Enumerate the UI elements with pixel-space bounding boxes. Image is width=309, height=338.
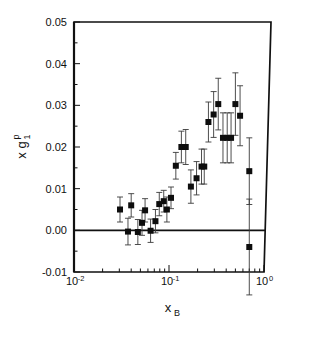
svg-text:1: 1 (22, 134, 32, 139)
x-axis-title: xB (165, 300, 180, 318)
svg-text:B: B (174, 308, 180, 318)
data-point-marker (148, 228, 154, 234)
svg-text:-1: -1 (173, 274, 180, 283)
data-point-marker (128, 202, 134, 208)
data-point-marker (232, 101, 238, 107)
x-tick-labels: 10-210-1100 (66, 274, 273, 287)
data-point-marker (194, 175, 200, 181)
data-point-marker (211, 112, 217, 118)
data-point-marker (161, 198, 167, 204)
y-tick-label: 0.05 (46, 16, 67, 28)
x-tick-label: 10-1 (161, 274, 179, 287)
svg-text:10: 10 (66, 275, 78, 287)
data-markers (117, 101, 252, 250)
data-point-marker (205, 119, 211, 125)
data-point-marker (164, 207, 170, 213)
y-tick-label: 0.02 (46, 141, 67, 153)
data-point-marker (228, 135, 234, 141)
svg-text:10: 10 (161, 275, 173, 287)
scatter-plot-svg: -0.010.000.010.020.030.040.05 10-210-110… (0, 0, 309, 338)
y-axis-title: x g1p (11, 134, 32, 158)
data-point-marker (183, 144, 189, 150)
data-point-marker (173, 163, 179, 169)
data-point-marker (117, 207, 123, 213)
axis-ticks (74, 22, 264, 272)
data-point-marker (215, 101, 221, 107)
y-tick-label: 0.00 (46, 224, 67, 236)
plot-frame (74, 22, 271, 272)
y-tick-labels: -0.010.000.010.020.030.040.05 (42, 16, 67, 278)
x-tick-label: 100 (256, 274, 273, 287)
data-point-marker (168, 195, 174, 201)
plot-border (74, 22, 271, 272)
svg-text:x g: x g (14, 141, 29, 158)
data-point-marker (135, 229, 141, 235)
data-point-marker (152, 218, 158, 224)
y-tick-label: -0.01 (42, 266, 67, 278)
data-point-marker (139, 220, 145, 226)
data-point-marker (246, 244, 252, 250)
data-point-marker (188, 184, 194, 190)
axis-titles: xBx g1p (11, 134, 180, 318)
svg-text:0: 0 (269, 274, 273, 283)
svg-text:10: 10 (256, 275, 268, 287)
data-point-marker (237, 113, 243, 119)
y-tick-label: 0.01 (46, 183, 67, 195)
y-tick-label: 0.04 (46, 58, 67, 70)
data-point-marker (142, 207, 148, 213)
x-tick-label: 10-2 (66, 274, 84, 287)
svg-text:x: x (165, 300, 172, 315)
data-point-marker (125, 229, 131, 235)
svg-text:-2: -2 (78, 274, 85, 283)
y-tick-label: 0.03 (46, 99, 67, 111)
data-point-marker (201, 164, 207, 170)
svg-text:p: p (11, 134, 21, 139)
chart-figure: -0.010.000.010.020.030.040.05 10-210-110… (0, 0, 309, 338)
error-bars (117, 73, 252, 295)
data-point-marker (246, 168, 252, 174)
